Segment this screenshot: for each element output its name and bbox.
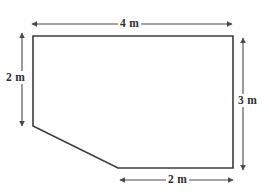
polygon-outline bbox=[33, 36, 233, 168]
dimension-label-right: 3 m bbox=[236, 94, 259, 107]
dimension-label-left: 2 m bbox=[4, 71, 27, 84]
dimension-label-top: 4 m bbox=[118, 17, 141, 30]
dimension-label-bottom: 2 m bbox=[166, 173, 189, 186]
geometry-diagram: 4 m 2 m 3 m 2 m bbox=[0, 0, 269, 195]
